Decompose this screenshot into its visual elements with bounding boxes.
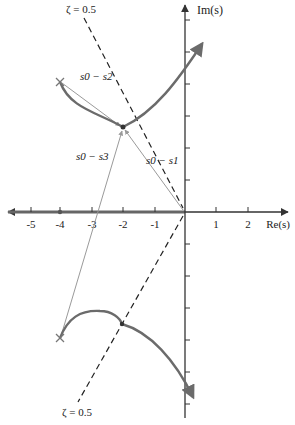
root-locus-diagram: -5 -4 -3 -2 -1 1 2 Re(s) Im(s) ζ = [0, 0, 295, 425]
tick-label-neg1: -1 [150, 218, 159, 230]
root-locus-branches [60, 44, 203, 397]
vector-label-s0-s1: s0 − s1 [146, 154, 178, 166]
tick-label-neg4: -4 [55, 218, 65, 230]
tick-label-1: 1 [213, 218, 219, 230]
tick-label-2: 2 [245, 218, 251, 230]
real-axis: -5 -4 -3 -2 -1 1 2 Re(s) [8, 207, 290, 231]
conjugate-test-point [120, 322, 124, 326]
pole-vectors: s0 − s2 s0 − s1 s0 − s3 [61, 70, 183, 336]
x-axis-label: Re(s) [266, 218, 290, 231]
test-point-s0 [121, 125, 126, 130]
vector-label-s0-s3: s0 − s3 [76, 150, 109, 162]
tick-label-neg2: -2 [118, 218, 127, 230]
poles [56, 78, 126, 342]
y-axis-label: Im(s) [197, 3, 223, 17]
tick-label-neg5: -5 [26, 218, 36, 230]
zeta-label-top: ζ = 0.5 [66, 3, 97, 16]
zeta-label-bottom: ζ = 0.5 [62, 406, 93, 419]
vector-label-s0-s2: s0 − s2 [80, 70, 113, 82]
